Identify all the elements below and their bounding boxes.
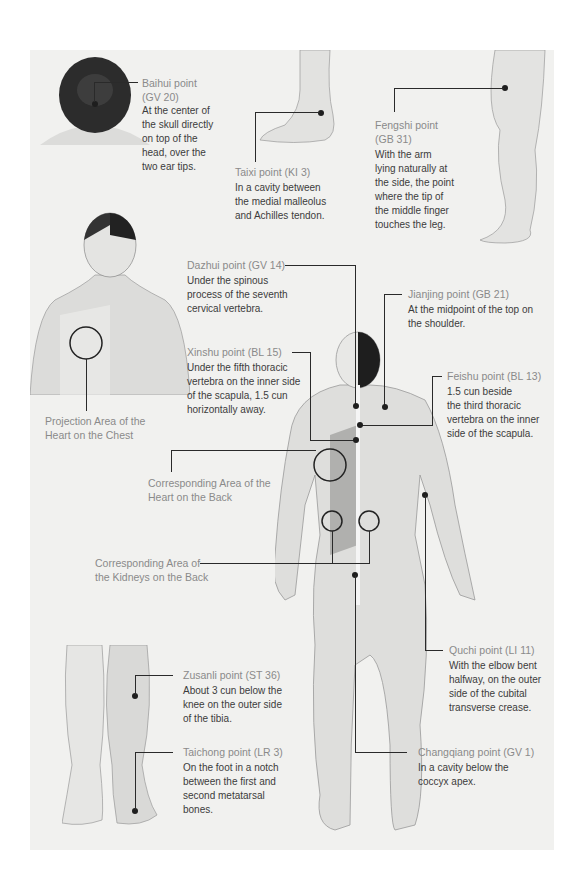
feishu-desc: 1.5 cun besidethe third thoracicvertebra… — [447, 385, 539, 441]
quchi-leader — [425, 650, 443, 651]
jianjing-leader — [384, 294, 385, 406]
kidney-leader — [332, 531, 333, 563]
leg-side-illustration — [465, 50, 550, 245]
changqiang-desc: In a cavity below thecoccyx apex. — [418, 761, 509, 789]
xinshu-label: Xinshu point (BL 15) — [187, 345, 282, 359]
feishu-leader — [432, 376, 433, 426]
taixi-leader — [255, 112, 320, 113]
taichong-desc: On the foot in a notchbetween the first … — [183, 761, 279, 817]
baihui-label: Baihui point(GV 20) — [142, 76, 197, 104]
chest-front-illustration — [30, 205, 190, 395]
foot-illustration — [255, 50, 345, 145]
heart-chest-label: Projection Area of theHeart on the Chest — [45, 414, 145, 442]
quchi-leader — [425, 495, 426, 650]
kidney-leader — [200, 563, 370, 564]
xinshu-desc: Under the fifth thoracicvertebra on the … — [187, 361, 300, 417]
taixi-label: Taixi point (KI 3) — [235, 165, 310, 179]
xinshu-point-marker — [353, 437, 359, 443]
kidney-left-circle — [320, 509, 344, 533]
feishu-label: Feishu point (BL 13) — [447, 369, 541, 383]
dazhui-desc: Under the spinousprocess of the seventhc… — [187, 274, 288, 316]
taichong-label: Taichong point (LR 3) — [183, 745, 283, 759]
quchi-desc: With the elbow benthalfway, on the outer… — [449, 659, 541, 715]
changqiang-label: Changqiang point (GV 1) — [418, 745, 534, 759]
zusanli-label: Zusanli point (ST 36) — [183, 668, 280, 682]
fengshi-leader — [394, 88, 395, 112]
fengshi-desc: With the armlying naturally atthe side, … — [375, 148, 454, 232]
heart-back-label: Corresponding Area of theHeart on the Ba… — [148, 476, 271, 504]
taixi-desc: In a cavity betweenthe medial malleolusa… — [235, 181, 326, 223]
jianjing-point-marker — [382, 404, 388, 410]
changqiang-leader — [355, 575, 356, 752]
baihui-point-marker — [92, 101, 98, 107]
fengshi-leader — [394, 88, 504, 89]
heart-back-leader — [171, 450, 172, 472]
changqiang-leader — [355, 752, 407, 753]
head-top-illustration — [40, 55, 150, 145]
feishu-point-marker — [357, 422, 363, 428]
dazhui-point-marker — [353, 403, 359, 409]
taichong-leader — [135, 752, 136, 810]
zusanli-desc: About 3 cun below theknee on the outer s… — [183, 684, 282, 726]
heart-back-circle — [312, 447, 348, 483]
kidney-right-circle — [357, 509, 381, 533]
xinshu-leader — [310, 352, 311, 441]
heart-chest-leader — [86, 359, 87, 411]
jianjing-desc: At the midpoint of the top onthe shoulde… — [408, 303, 533, 331]
xinshu-leader — [292, 352, 310, 353]
zusanli-leader — [135, 675, 173, 676]
baihui-leader — [94, 82, 138, 83]
dazhui-label: Dazhui point (GV 14) — [187, 258, 285, 272]
jianjing-leader — [384, 294, 402, 295]
jianjing-label: Jianjing point (GB 21) — [408, 287, 509, 301]
heart-back-leader — [171, 450, 316, 451]
dazhui-leader — [355, 265, 356, 405]
taichong-leader — [135, 752, 173, 753]
kidney-label: Corresponding Area ofthe Kidneys on the … — [95, 556, 208, 584]
fengshi-label: Fengshi point(GB 31) — [375, 118, 438, 146]
zusanli-leader — [135, 675, 136, 695]
taixi-leader — [255, 112, 256, 162]
dazhui-leader — [285, 265, 355, 266]
quchi-label: Quchi point (LI 11) — [449, 643, 535, 657]
baihui-leader — [94, 82, 95, 102]
baihui-desc: At the center ofthe skull directlyon top… — [142, 104, 213, 174]
kidney-leader — [369, 531, 370, 563]
feishu-leader — [360, 425, 432, 426]
lower-legs-illustration — [62, 645, 162, 830]
taixi-point-marker — [318, 110, 324, 116]
xinshu-leader — [310, 440, 355, 441]
heart-chest-circle — [68, 325, 104, 361]
feishu-leader — [432, 376, 442, 377]
